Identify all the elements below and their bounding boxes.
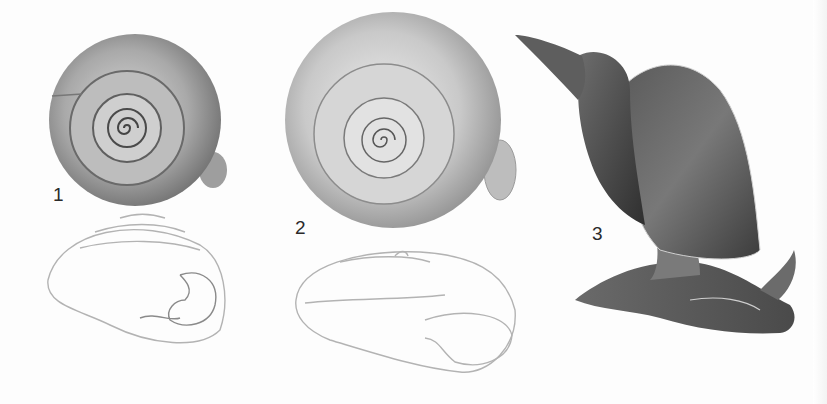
figure-2-label: 2 (295, 218, 306, 237)
figure-1-apertural-outline (48, 214, 225, 342)
figure-3-label: 3 (592, 224, 603, 243)
illustration-plate: 1 2 3 (0, 0, 827, 404)
figure-2-apertural-outline (296, 252, 515, 373)
figure-1-apical-view (49, 34, 227, 206)
plate-drawing (0, 0, 827, 404)
figure-3-live-snail (515, 35, 796, 333)
figure-2-apical-view (285, 12, 516, 228)
figure-1-label: 1 (53, 185, 64, 204)
plate-edge (813, 0, 827, 404)
